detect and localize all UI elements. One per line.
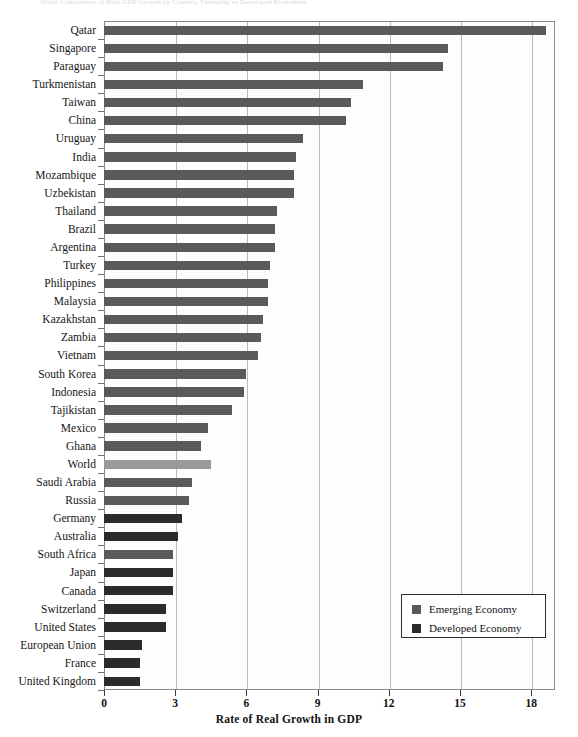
bar-row	[104, 636, 555, 655]
bar	[104, 134, 303, 143]
value-tick	[104, 690, 105, 696]
bar-row	[104, 491, 555, 510]
bar	[104, 586, 173, 595]
bar-row	[104, 527, 555, 546]
category-label: Ghana	[66, 437, 96, 456]
bar-row	[104, 39, 555, 58]
category-label: Indonesia	[51, 383, 96, 402]
value-tick-label: 3	[172, 697, 178, 709]
gdp-growth-bar-chart: World Comparison of Real GDP Growth by C…	[0, 0, 578, 737]
category-axis-labels: QatarSingaporeParaguayTurkmenistanTaiwan…	[0, 21, 104, 690]
legend-item: Emerging Economy	[412, 601, 545, 617]
category-label: United States	[34, 618, 96, 637]
bar-row	[104, 401, 555, 420]
bar	[104, 496, 189, 505]
bar-row	[104, 383, 555, 402]
bar-row	[104, 220, 555, 239]
value-tick	[246, 690, 247, 696]
bar	[104, 369, 246, 378]
bar	[104, 460, 211, 469]
bar	[104, 514, 182, 523]
category-label: Russia	[65, 491, 96, 510]
legend: Emerging Economy Developed Economy	[401, 594, 546, 638]
bar	[104, 333, 261, 342]
bar-row	[104, 148, 555, 167]
bar-row	[104, 672, 555, 691]
category-label: Turkey	[63, 256, 96, 275]
legend-label: Developed Economy	[429, 622, 522, 634]
category-label: Canada	[62, 582, 96, 601]
category-label: Uruguay	[56, 129, 96, 148]
bar-row	[104, 455, 555, 474]
bar	[104, 243, 275, 252]
bar	[104, 405, 232, 414]
category-label: Vietnam	[57, 346, 96, 365]
x-axis-title: Rate of Real Growth in GDP	[0, 713, 578, 725]
value-tick	[389, 690, 390, 696]
bar	[104, 98, 351, 107]
bar	[104, 261, 270, 270]
bar	[104, 279, 268, 288]
bar-row	[104, 111, 555, 130]
bar-row	[104, 274, 555, 293]
category-label: Saudi Arabia	[36, 473, 96, 492]
value-tick-label: 12	[383, 697, 395, 709]
bar	[104, 423, 208, 432]
bar-row	[104, 57, 555, 76]
value-axis-labels: 0369121518	[0, 697, 578, 713]
bar	[104, 206, 277, 215]
category-label: Mozambique	[35, 166, 96, 185]
top-caption: World Comparison of Real GDP Growth by C…	[40, 0, 540, 8]
bar-row	[104, 545, 555, 564]
category-label: Mexico	[61, 419, 96, 438]
bar	[104, 116, 346, 125]
value-tick-label: 18	[526, 697, 538, 709]
bar	[104, 568, 173, 577]
category-label: China	[69, 111, 96, 130]
bar	[104, 622, 166, 631]
bar	[104, 44, 448, 53]
bar	[104, 62, 443, 71]
bar-row	[104, 93, 555, 112]
value-tick-label: 15	[454, 697, 466, 709]
category-label: South Africa	[38, 545, 96, 564]
category-label: Tajikistan	[51, 401, 96, 420]
value-tick-label: 6	[244, 697, 250, 709]
bar-row	[104, 419, 555, 438]
category-label: Argentina	[50, 238, 96, 257]
value-tick	[460, 690, 461, 696]
category-label: France	[65, 654, 96, 673]
category-label: Malaysia	[54, 292, 96, 311]
category-label: Paraguay	[53, 57, 96, 76]
category-label: Taiwan	[62, 93, 96, 112]
value-tick	[531, 690, 532, 696]
bar	[104, 478, 192, 487]
category-label: European Union	[20, 636, 96, 655]
bar	[104, 297, 268, 306]
bar-row	[104, 166, 555, 185]
value-tick-label: 0	[101, 697, 107, 709]
bar-row	[104, 437, 555, 456]
bar	[104, 152, 296, 161]
bar-row	[104, 563, 555, 582]
bar-row	[104, 328, 555, 347]
category-label: Brazil	[68, 220, 96, 239]
category-label: Thailand	[55, 202, 96, 221]
bar-row	[104, 346, 555, 365]
category-label: Philippines	[44, 274, 96, 293]
category-label: World	[68, 455, 96, 474]
legend-item: Developed Economy	[412, 620, 545, 636]
category-label: South Korea	[38, 365, 96, 384]
bar-row	[104, 184, 555, 203]
bar	[104, 658, 140, 667]
bar	[104, 441, 201, 450]
bar	[104, 532, 178, 541]
bar-row	[104, 473, 555, 492]
bar	[104, 550, 173, 559]
category-label: Germany	[53, 509, 96, 528]
category-label: United Kingdom	[18, 672, 96, 691]
legend-label: Emerging Economy	[429, 603, 517, 615]
category-label: Zambia	[61, 328, 96, 347]
category-label: Singapore	[49, 39, 96, 58]
bar-row	[104, 292, 555, 311]
